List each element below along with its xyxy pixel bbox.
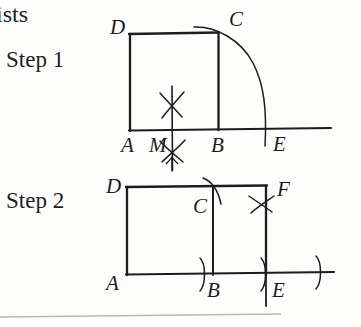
step1-label-E: E	[272, 132, 286, 156]
step2-label-F: F	[276, 177, 290, 201]
cropped-word-text: ists	[0, 1, 28, 27]
step2-label-D: D	[105, 174, 121, 198]
step-1-caption: Step 1	[6, 47, 64, 72]
step1-label-C: C	[229, 7, 244, 31]
step1-label-A: A	[119, 133, 134, 157]
step1-label-M: M	[148, 133, 168, 157]
step2-side-DF	[126, 186, 267, 188]
figure-canvas: ists Step 1 Step 2	[0, 0, 361, 327]
step2-label-A: A	[104, 271, 119, 295]
step1-label-B: B	[211, 133, 224, 157]
step1-side-DC	[129, 33, 219, 35]
step1-label-D: D	[109, 15, 125, 39]
step2-label-B: B	[207, 278, 220, 302]
step2-label-C: C	[193, 194, 208, 218]
scanned-geometry-figure: ists Step 1 Step 2	[0, 0, 361, 327]
step-2-caption: Step 2	[6, 188, 64, 213]
step2-label-E: E	[271, 278, 285, 302]
